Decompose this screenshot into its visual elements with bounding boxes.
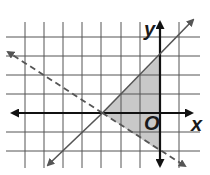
coordinate-graph [0, 0, 210, 175]
dashed-boundary-line [8, 52, 102, 113]
solid-boundary-line-lower [48, 113, 102, 165]
origin-label: O [144, 112, 160, 135]
grid-lines [6, 22, 200, 168]
y-axis-label: y [144, 18, 155, 41]
x-axis-label: x [191, 113, 202, 136]
